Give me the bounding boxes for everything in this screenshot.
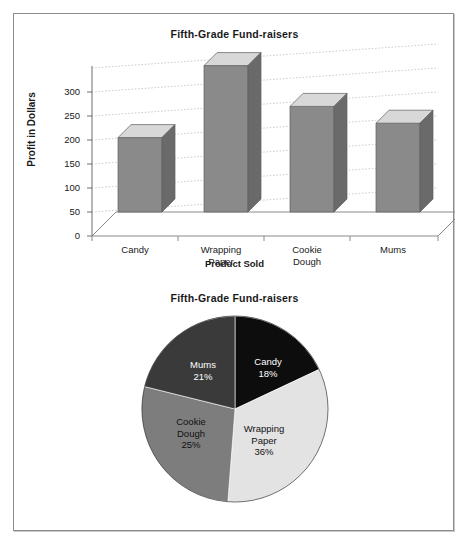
pie-label-wrapping-paper-value: 36% xyxy=(244,446,285,458)
x-tick-wrapping-paper-line1: Wrapping xyxy=(178,244,264,256)
pie-label-wrapping-paper-line1: Wrapping xyxy=(244,423,285,435)
figure-border: Fifth-Grade Fund-raisers Profit in Dolla… xyxy=(13,13,454,531)
pie-label-wrapping-paper: Wrapping Paper 36% xyxy=(244,423,285,458)
bar-cookie-dough xyxy=(290,93,347,212)
pie-label-cookie-dough-line1: Cookie xyxy=(176,416,206,428)
bar-chart-panel: Fifth-Grade Fund-raisers Profit in Dolla… xyxy=(14,14,455,280)
y-tick-50: 50 xyxy=(46,206,80,217)
pie-label-mums: Mums 21% xyxy=(190,359,216,382)
floor xyxy=(92,212,455,236)
x-tick-mums: Mums xyxy=(350,244,436,256)
x-tick-mums-line1: Mums xyxy=(350,244,436,256)
pie-label-mums-value: 21% xyxy=(190,370,216,382)
bar-mums xyxy=(376,110,433,212)
y-tick-200: 200 xyxy=(46,134,80,145)
y-axis xyxy=(87,66,92,236)
pie-chart-panel: Fifth-Grade Fund-raisers Candy 18% Wrapp… xyxy=(14,286,455,532)
x-tick-candy-line1: Candy xyxy=(92,244,178,256)
bar-chart-plot-area: 0 50 100 150 200 250 300 Candy Wrapping … xyxy=(14,14,455,254)
pie-chart-plot-area: Candy 18% Wrapping Paper 36% Cookie Doug… xyxy=(140,314,330,504)
x-tick-cookie-dough-line1: Cookie xyxy=(264,244,350,256)
y-tick-100: 100 xyxy=(46,182,80,193)
pie-label-cookie-dough-value: 25% xyxy=(176,439,206,451)
pie-chart-title: Fifth-Grade Fund-raisers xyxy=(14,292,455,304)
pie-label-cookie-dough: Cookie Dough 25% xyxy=(176,416,206,451)
bar-chart-svg xyxy=(14,14,455,254)
pie-label-candy-value: 18% xyxy=(254,367,281,379)
pie-label-candy-name: Candy xyxy=(254,356,281,368)
pie-chart-svg xyxy=(140,314,330,504)
pie-label-cookie-dough-line2: Dough xyxy=(176,427,206,439)
bar-chart-x-axis-label: Product Sold xyxy=(14,258,455,269)
x-tick-candy: Candy xyxy=(92,244,178,256)
pie-label-wrapping-paper-line2: Paper xyxy=(244,434,285,446)
bar-candy xyxy=(118,125,175,212)
y-tick-0: 0 xyxy=(46,230,80,241)
y-tick-150: 150 xyxy=(46,158,80,169)
y-tick-250: 250 xyxy=(46,110,80,121)
x-axis-ticks xyxy=(92,236,438,241)
pie-label-candy: Candy 18% xyxy=(254,356,281,379)
bar-wrapping-paper xyxy=(204,53,261,212)
y-tick-300: 300 xyxy=(46,86,80,97)
pie-label-mums-name: Mums xyxy=(190,359,216,371)
